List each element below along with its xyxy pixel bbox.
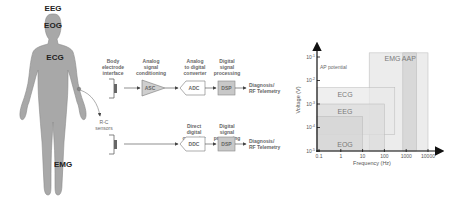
y-tick-label: 10-3 — [306, 101, 315, 107]
electrode-bracket-bottom — [109, 135, 114, 154]
stage-label-asc: Analog signal conditioning — [136, 58, 166, 76]
region-aap — [403, 53, 417, 151]
svg-text:processing: processing — [214, 70, 241, 76]
region-label-ecg: ECG — [337, 91, 352, 98]
stage-label-dsp-top: Digital signal processing — [214, 58, 241, 76]
y-tick-label: 10-2 — [306, 77, 315, 83]
x-tick-label: 1 — [339, 153, 342, 159]
x-tick-label: 1000 — [401, 153, 412, 159]
svg-text:RF Telemetry: RF Telemetry — [249, 144, 281, 150]
asc-label: ASC — [145, 85, 156, 91]
electrode-pad-top — [114, 84, 117, 93]
ap-potential-annotation: AP potential — [320, 64, 347, 70]
x-tick-label: 10 — [360, 153, 366, 159]
x-tick-label: 10000 — [421, 153, 435, 159]
pipeline-bottom: Direct digital converter Digital signal … — [109, 123, 281, 154]
body-label-ecg: ECG — [46, 53, 63, 62]
rc-sensors-label-line2: sensors — [95, 125, 113, 131]
stage-label-body-electrode: Body electrode interface — [102, 58, 124, 76]
region-label-emg: EMG — [385, 55, 401, 62]
output-label-top: Diagnosis/ RF Telemetry — [249, 82, 281, 94]
figure: EEG EOG ECG EMG R-C sensors Body electro… — [0, 0, 465, 204]
body-label-emg: EMG — [54, 160, 72, 169]
electrode-pad-bottom — [114, 140, 117, 149]
frequency-voltage-chart: EMGAAPECGEEGEOG 0.111010010001000010-110… — [295, 44, 442, 166]
output-label-bottom: Diagnosis/ RF Telemetry — [249, 138, 281, 150]
ddc-label: DDC — [189, 141, 200, 147]
x-tick-label: 100 — [380, 153, 389, 159]
svg-text:converter: converter — [184, 70, 207, 76]
dsp-label-bottom: DSP — [221, 141, 232, 147]
body-label-eog: EOG — [44, 21, 62, 30]
pipeline-top: Body electrode interface Analog signal c… — [102, 58, 281, 98]
electrode-bracket-top — [109, 79, 114, 98]
human-body-figure: EEG EOG ECG EMG — [20, 4, 86, 195]
x-tick-label: 0.1 — [316, 153, 323, 159]
region-label-eog: EOG — [337, 141, 353, 148]
svg-text:interface: interface — [103, 70, 124, 76]
y-tick-label: 10-4 — [306, 124, 315, 130]
dsp-label-top: DSP — [221, 85, 232, 91]
body-label-eeg: EEG — [45, 4, 62, 13]
stage-label-adc: Analog to digital converter — [184, 58, 207, 76]
x-axis-title: Frequency (Hz) — [353, 160, 391, 166]
y-tick-label: 10-5 — [306, 148, 315, 154]
svg-text:conditioning: conditioning — [136, 70, 166, 76]
region-label-eeg: EEG — [338, 108, 353, 115]
y-axis-title: Voltage (V) — [295, 86, 301, 113]
region-label-aap: AAP — [402, 55, 416, 62]
adc-label: ADC — [189, 85, 200, 91]
svg-text:RF Telemetry: RF Telemetry — [249, 88, 281, 94]
y-tick-label: 10-1 — [306, 54, 315, 60]
